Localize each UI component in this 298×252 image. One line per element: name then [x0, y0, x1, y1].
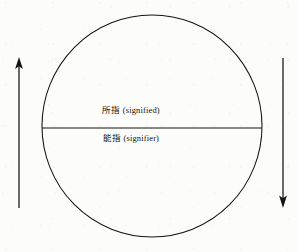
sign-circle — [42, 15, 262, 237]
signification-diagram: 所指 (signified) 能指 (signifier) — [0, 0, 298, 252]
left-arrow-up — [15, 57, 23, 208]
signifier-label: 能指 (signifier) — [0, 134, 262, 143]
right-arrow-down — [279, 58, 287, 208]
diagram-vector-layer — [0, 0, 298, 252]
signified-label: 所指 (signified) — [0, 106, 262, 115]
